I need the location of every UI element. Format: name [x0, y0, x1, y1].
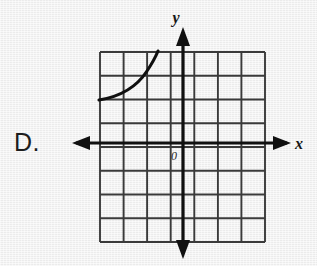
arrow-up-icon — [176, 27, 190, 46]
y-axis-label: y — [170, 9, 180, 27]
origin-label: 0 — [171, 149, 177, 163]
x-axis-label: x — [294, 135, 303, 152]
arrow-left-icon — [72, 136, 90, 150]
axis-lines — [76, 32, 287, 254]
coordinate-graph: y x 0 — [0, 0, 317, 266]
arrow-right-icon — [273, 136, 291, 150]
figure-page: D. — [0, 0, 317, 266]
arrow-down-icon — [176, 240, 190, 259]
